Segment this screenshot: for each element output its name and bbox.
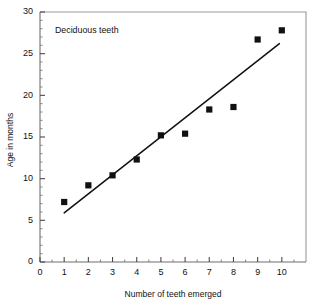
- x-tick-label: 0: [37, 267, 42, 277]
- data-point-marker: [206, 106, 212, 112]
- x-axis-ticks: [40, 257, 294, 262]
- x-tick-label: 8: [231, 267, 236, 277]
- x-tick-label: 1: [62, 267, 67, 277]
- y-axis-title: Age in months: [5, 113, 15, 167]
- data-point-marker: [230, 104, 236, 110]
- axes: [40, 12, 306, 262]
- x-tick-label: 7: [207, 267, 212, 277]
- x-tick-label: 3: [110, 267, 115, 277]
- y-axis-tick-labels: 051015202530: [23, 6, 33, 266]
- x-axis-title: Number of teeth emerged: [125, 289, 222, 299]
- x-tick-label: 2: [86, 267, 91, 277]
- y-axis-ticks: [40, 12, 45, 262]
- data-point-marker: [158, 132, 164, 138]
- y-tick-label: 30: [23, 6, 33, 16]
- chart-container: 051015202530 012345678910 Deciduous teet…: [0, 0, 318, 304]
- data-point-marker: [279, 27, 285, 33]
- plot-title: Deciduous teeth: [55, 25, 119, 35]
- scatter-chart: 051015202530 012345678910 Deciduous teet…: [0, 0, 318, 304]
- data-point-marker: [182, 131, 188, 137]
- data-points: [61, 27, 285, 205]
- data-point-marker: [109, 172, 115, 178]
- x-axis-tick-labels: 012345678910: [37, 267, 286, 277]
- data-point-marker: [61, 199, 67, 205]
- data-point-marker: [255, 36, 261, 42]
- x-tick-label: 9: [255, 267, 260, 277]
- data-point-marker: [134, 156, 140, 162]
- plot-frame: [40, 12, 306, 262]
- x-tick-label: 6: [183, 267, 188, 277]
- y-tick-label: 15: [23, 131, 33, 141]
- y-tick-label: 5: [28, 215, 33, 225]
- y-tick-label: 20: [23, 90, 33, 100]
- x-tick-label: 5: [158, 267, 163, 277]
- x-tick-label: 10: [277, 267, 287, 277]
- data-point-marker: [85, 182, 91, 188]
- y-tick-label: 10: [23, 173, 33, 183]
- x-tick-label: 4: [134, 267, 139, 277]
- trend-line: [64, 44, 279, 213]
- y-tick-label: 25: [23, 48, 33, 58]
- y-tick-label: 0: [28, 256, 33, 266]
- frame-top-right: [40, 12, 306, 262]
